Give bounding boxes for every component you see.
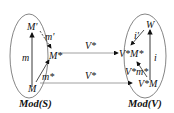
edge-label-m: m — [22, 52, 29, 63]
node-m-prime: M' — [26, 21, 38, 32]
diagram: M' M* M m m' m* Mod(S) V* V* W V*M* V*M … — [0, 0, 174, 113]
node-m-star: M* — [48, 50, 62, 61]
node-m: M — [27, 83, 37, 94]
node-v-m-star: V*M* — [119, 48, 143, 59]
caption-mod-s: Mod(S) — [18, 98, 52, 110]
functor-label-lower: V* — [85, 70, 96, 81]
node-v-m: V*M — [138, 78, 158, 89]
functor-label-upper: V* — [85, 40, 96, 51]
node-w: W — [146, 19, 156, 30]
caption-mod-v: Mod(V) — [127, 98, 162, 110]
diagram-canvas: M' M* M m m' m* Mod(S) V* V* W V*M* V*M … — [0, 0, 174, 113]
edge-label-m-prime: m' — [45, 31, 55, 42]
edge-label-m-star: m* — [42, 71, 54, 82]
edge-label-v-m-star: V*m* — [125, 66, 148, 77]
edge-label-i-prime: i' — [134, 30, 140, 41]
edge-label-i: i — [154, 52, 157, 63]
